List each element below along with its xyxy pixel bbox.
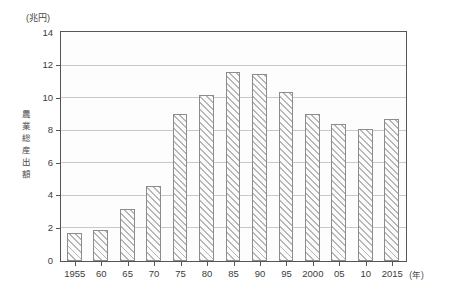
- y-tick-label-12: 12: [29, 59, 53, 70]
- bar-90: [252, 74, 267, 261]
- y-tick-label-10: 10: [29, 92, 53, 103]
- y-axis-title-char-6: 額: [19, 168, 33, 180]
- y-tick-mark: [56, 228, 60, 229]
- x-tick-mark: [339, 262, 340, 266]
- x-tick-label-2015: 2015: [372, 268, 412, 279]
- y-tick-label-4: 4: [29, 189, 53, 200]
- y-axis-unit-label: (兆円): [26, 11, 50, 24]
- bar-75: [173, 114, 188, 261]
- y-axis-title: 農 業 総 産 出 額: [19, 108, 33, 180]
- y-tick-mark: [56, 130, 60, 131]
- x-tick-mark: [234, 262, 235, 266]
- bar-80: [199, 95, 214, 261]
- y-tick-mark: [56, 98, 60, 99]
- y-axis-title-char-1: 農: [19, 108, 33, 120]
- x-tick-mark: [313, 262, 314, 266]
- y-axis-title-char-4: 産: [19, 144, 33, 156]
- x-tick-mark: [207, 262, 208, 266]
- bar-65: [120, 209, 135, 261]
- x-tick-mark: [260, 262, 261, 266]
- bar-2000: [305, 114, 320, 261]
- bar-2015: [384, 119, 399, 261]
- x-tick-mark: [392, 262, 393, 266]
- x-tick-mark: [75, 262, 76, 266]
- x-tick-mark: [128, 262, 129, 266]
- y-tick-label-6: 6: [29, 157, 53, 168]
- bar-1955: [67, 233, 82, 261]
- y-tick-mark: [56, 65, 60, 66]
- y-tick-label-0: 0: [29, 255, 53, 266]
- x-tick-mark: [154, 262, 155, 266]
- x-tick-mark: [181, 262, 182, 266]
- x-tick-mark: [286, 262, 287, 266]
- bar-10: [358, 129, 373, 261]
- agricultural-output-bar-chart: (兆円) 農 業 総 産 出 額 02468101214 19556065707…: [0, 0, 467, 300]
- bar-60: [93, 230, 108, 261]
- bar-70: [146, 186, 161, 261]
- bar-series: [61, 32, 406, 261]
- plot-area: [60, 31, 407, 262]
- y-tick-label-2: 2: [29, 222, 53, 233]
- x-tick-mark: [366, 262, 367, 266]
- x-axis-unit-label: (年): [409, 268, 424, 280]
- y-tick-mark: [56, 163, 60, 164]
- bar-95: [279, 92, 294, 261]
- y-tick-mark: [56, 195, 60, 196]
- y-tick-label-8: 8: [29, 124, 53, 135]
- bar-05: [331, 124, 346, 261]
- y-tick-label-14: 14: [29, 27, 53, 38]
- x-tick-mark: [101, 262, 102, 266]
- bar-85: [226, 72, 241, 261]
